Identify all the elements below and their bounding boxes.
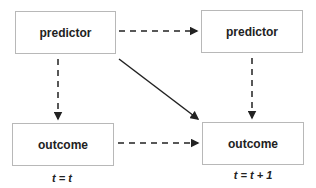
- predictor-t-node: predictor: [15, 11, 116, 54]
- outcome-t-node: outcome: [12, 123, 114, 166]
- outcome-t1-label: outcome: [228, 137, 278, 151]
- edge-cross-lagged: [119, 59, 198, 119]
- outcome-t1-node: outcome: [202, 122, 304, 165]
- time-label-t: t = t: [12, 172, 112, 184]
- predictor-t1-label: predictor: [226, 25, 278, 39]
- predictor-t-label: predictor: [39, 26, 91, 40]
- predictor-t1-node: predictor: [201, 10, 303, 53]
- time-label-t1: t = t + 1: [203, 169, 303, 181]
- outcome-t-label: outcome: [38, 138, 88, 152]
